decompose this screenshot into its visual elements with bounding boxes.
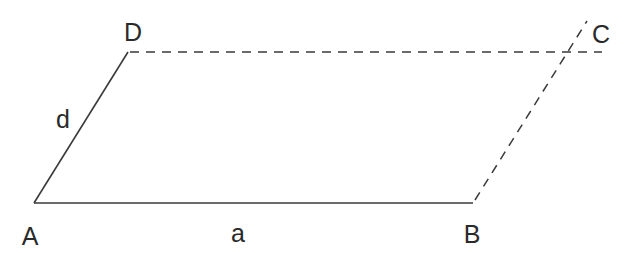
vertex-label-a: A [22, 224, 39, 249]
vertex-label-b: B [464, 222, 481, 247]
side-ad [34, 52, 128, 203]
side-label-d: d [56, 107, 70, 132]
side-label-a: a [231, 221, 245, 246]
vertex-label-c: C [592, 22, 610, 47]
dashed-line-bc [475, 21, 587, 200]
vertex-label-d: D [124, 20, 142, 45]
parallelogram-diagram [0, 0, 642, 253]
